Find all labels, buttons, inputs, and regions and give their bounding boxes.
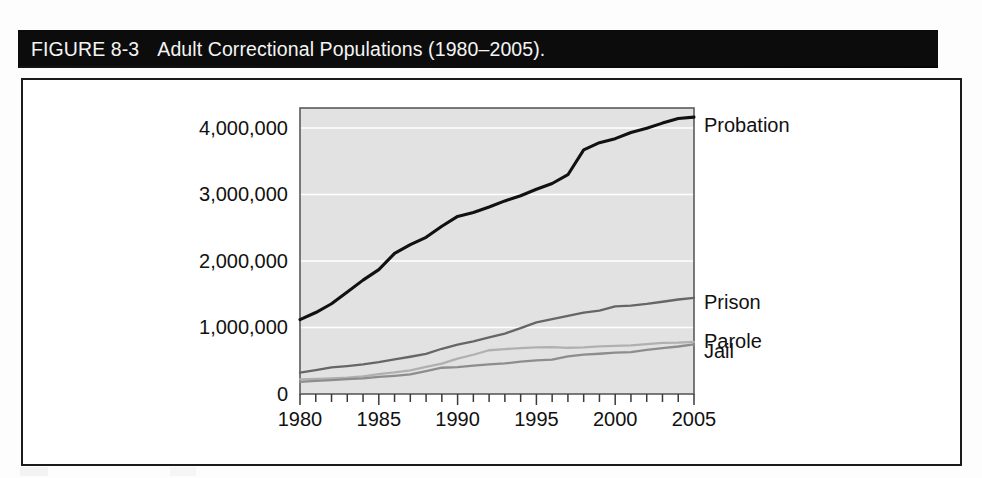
figure-number-label: FIGURE 8-3 [31, 38, 139, 61]
y-axis-tick-label: 1,000,000 [199, 316, 288, 338]
x-axis-tick-label: 2000 [593, 408, 638, 430]
series-label-jail: Jail [704, 340, 734, 362]
y-axis-tick-label: 3,000,000 [199, 183, 288, 205]
x-axis-tick-label: 2005 [672, 408, 717, 430]
series-label-probation: Probation [704, 114, 790, 136]
x-axis-tick-label: 1995 [514, 408, 559, 430]
chart-svg: 19801985199019952000200501,000,0002,000,… [23, 80, 960, 464]
y-axis-tick-label: 0 [277, 383, 288, 405]
figure-caption: Adult Correctional Populations (1980–200… [157, 38, 545, 61]
figure-frame: 19801985199019952000200501,000,0002,000,… [21, 78, 962, 466]
y-axis-tick-label: 2,000,000 [199, 250, 288, 272]
y-axis-tick-label: 4,000,000 [199, 117, 288, 139]
line-chart: 19801985199019952000200501,000,0002,000,… [23, 80, 964, 464]
scan-artifact [20, 467, 350, 476]
series-label-prison: Prison [704, 291, 761, 313]
x-axis-tick-label: 1980 [278, 408, 323, 430]
figure-title-bar: FIGURE 8-3 Adult Correctional Population… [18, 30, 938, 68]
x-axis-tick-label: 1985 [357, 408, 402, 430]
x-axis-tick-label: 1990 [435, 408, 480, 430]
figure-page: FIGURE 8-3 Adult Correctional Population… [0, 0, 982, 478]
